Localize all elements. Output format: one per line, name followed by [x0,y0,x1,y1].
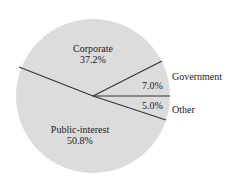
other-percent: 5.0% [142,100,163,111]
slice-label-public-interest: Public-interest 50.8% [51,124,109,146]
public-interest-name: Public-interest [51,124,109,135]
corporate-name: Corporate [73,43,113,54]
government-name: Government [172,71,222,82]
government-percent: 7.0% [142,80,163,91]
pie-chart: Corporate 37.2% Public-interest 50.8% 7.… [0,0,235,178]
slice-label-corporate: Corporate 37.2% [73,43,113,65]
other-name: Other [172,104,195,115]
public-interest-percent: 50.8% [51,135,109,146]
pie-chart-svg [0,0,235,178]
corporate-percent: 37.2% [73,54,113,65]
